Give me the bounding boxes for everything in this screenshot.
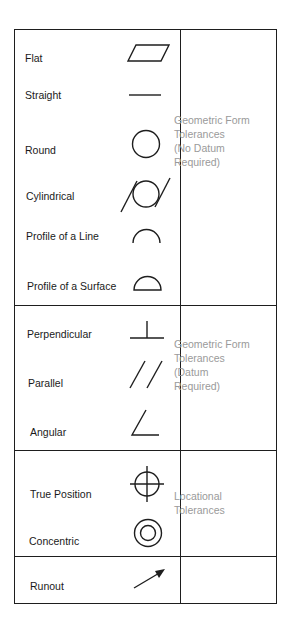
- angularity-icon: [131, 409, 161, 437]
- row-label-parallel: Parallel: [28, 377, 63, 389]
- straightness-icon: [129, 93, 163, 97]
- runout-icon: [133, 568, 167, 590]
- profile-line-icon: [132, 227, 162, 245]
- row-divider: [15, 556, 276, 557]
- circularity-icon: [131, 129, 161, 159]
- row-divider: [15, 305, 276, 306]
- row-label-round: Round: [25, 144, 56, 156]
- row-label-perpendicular: Perpendicular: [27, 328, 92, 340]
- row-label-concentric: Concentric: [29, 535, 79, 547]
- category-locational: Locational Tolerances: [174, 489, 264, 517]
- parallelism-icon: [130, 360, 164, 390]
- row-label-cylindrical: Cylindrical: [26, 190, 74, 202]
- row-label-angular: Angular: [30, 426, 66, 438]
- row-label-profile-surface: Profile of a Surface: [27, 280, 116, 292]
- concentricity-icon: [133, 518, 163, 548]
- row-label-true-position: True Position: [30, 488, 91, 500]
- row-label-runout: Runout: [30, 580, 64, 592]
- true-position-icon: [130, 466, 166, 504]
- perpendicularity-icon: [130, 320, 166, 340]
- row-label-profile-line: Profile of a Line: [26, 230, 99, 242]
- row-label-straight: Straight: [25, 89, 61, 101]
- row-divider: [15, 450, 276, 451]
- flatness-icon: [128, 44, 170, 64]
- cylindricity-icon: [120, 177, 172, 213]
- row-label-flat: Flat: [25, 52, 43, 64]
- category-form-datum: Geometric Form Tolerances (Datum Require…: [174, 337, 264, 393]
- category-form-no-datum: Geometric Form Tolerances (No Datum Requ…: [174, 113, 264, 169]
- profile-surface-icon: [133, 275, 163, 292]
